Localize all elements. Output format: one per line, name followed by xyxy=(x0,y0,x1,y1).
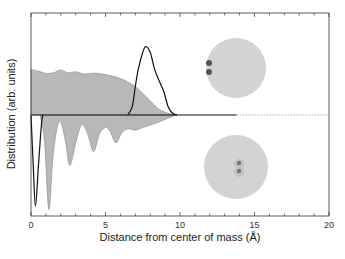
y-axis-label: Distribution (arb. units) xyxy=(5,59,17,170)
x-tick-label: 5 xyxy=(103,220,108,230)
inset-center-droplet xyxy=(204,135,268,199)
chart: 05101520 Distance from center of mass (Å… xyxy=(0,0,345,259)
x-tick-label: 15 xyxy=(249,220,259,230)
series-line-3 xyxy=(31,115,43,206)
series-area-0 xyxy=(31,69,177,115)
x-tick-label: 0 xyxy=(28,220,33,230)
x-axis-label: Distance from center of mass (Å) xyxy=(100,231,261,243)
series-area-2 xyxy=(40,115,176,210)
plot-area xyxy=(31,47,329,210)
x-tick-label: 10 xyxy=(175,220,185,230)
x-tick-label: 20 xyxy=(324,220,334,230)
inset-images xyxy=(204,38,268,199)
inset-surface-droplet xyxy=(206,38,266,98)
